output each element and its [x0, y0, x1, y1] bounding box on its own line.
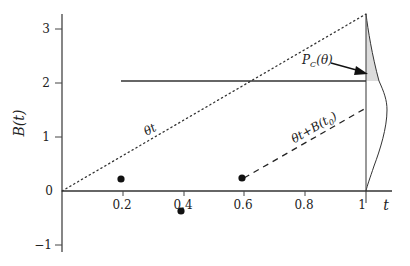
pc-theta-label: PC(θ): [301, 53, 333, 69]
y-tick-label-0: 0: [45, 184, 53, 198]
y-tick-label-3: 3: [42, 22, 50, 36]
data-point-t0-4: [177, 207, 184, 214]
y-ticks: [55, 29, 62, 245]
x-tick-label-0-6: 0.6: [233, 198, 252, 212]
x-tick-label-0-2: 0.2: [112, 198, 131, 212]
y-tick-label-2: 2: [42, 76, 50, 90]
theta-t-plus-b-dashed-line: [244, 108, 366, 178]
brownian-motion-chart: 3 2 1 0 −1 0.2 0.4 0.6 0.8 1 t B(t) θt θ…: [0, 0, 410, 266]
x-tick-label-0-8: 0.8: [294, 198, 313, 212]
x-tick-label-1: 1: [358, 198, 366, 212]
x-axis-label: t: [383, 197, 389, 213]
svg-text:θt+B(t0): θt+B(t0): [289, 109, 341, 148]
y-tick-label-neg1: −1: [34, 238, 52, 252]
theta-t-dotted-line: [62, 14, 366, 191]
y-tick-label-1: 1: [42, 130, 50, 144]
y-axis-label: B(t): [11, 110, 27, 138]
theta-t-plus-b-label: θt+B(t0): [289, 109, 341, 148]
density-shaded-tail: [366, 14, 379, 81]
data-point-t0-2: [117, 175, 124, 182]
data-point-t0-6: [238, 174, 245, 181]
